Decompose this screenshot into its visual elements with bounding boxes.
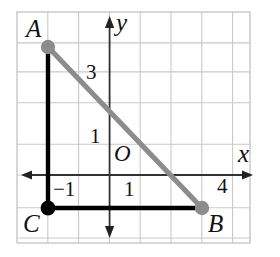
vertex-label-A: A [26, 16, 41, 41]
vertex-label-B: B [208, 211, 223, 236]
vertex-C-point [41, 201, 56, 216]
x-tick-label-1: 1 [124, 179, 135, 200]
x-tick-label-4: 4 [217, 176, 228, 197]
segment-length-label-3: 3 [86, 62, 97, 83]
x-tick-label-negative-1: −1 [53, 179, 75, 200]
origin-label: O [114, 142, 131, 165]
vertex-A-point [41, 40, 55, 54]
y-tick-label-1: 1 [90, 126, 101, 147]
figure-canvas: A B C x y 3 1 −1 1 4 O [0, 0, 280, 257]
vertex-label-C: C [23, 211, 40, 236]
y-axis-label: y [116, 10, 127, 35]
x-axis-label: x [238, 141, 249, 166]
coordinate-plane-svg [0, 0, 280, 257]
